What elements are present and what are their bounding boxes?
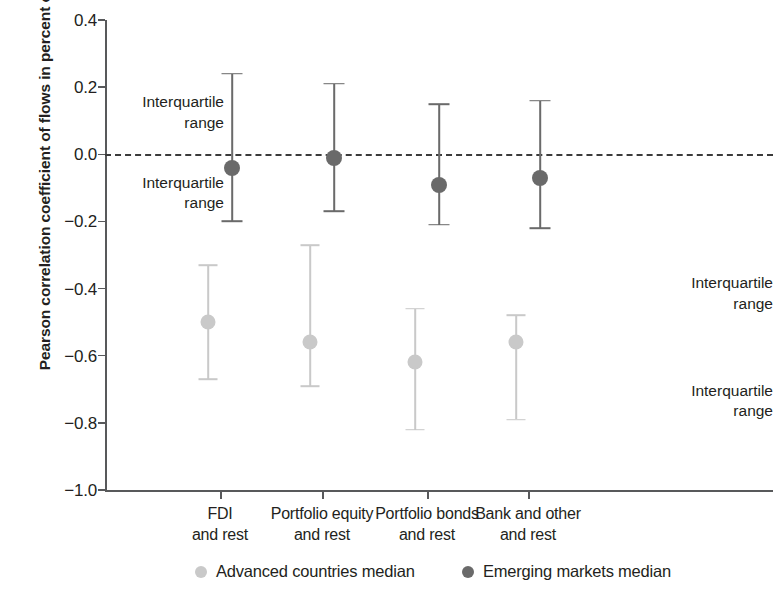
legend-label: Advanced countries median — [216, 562, 415, 581]
y-axis-tick-label: 0.4 — [37, 12, 97, 29]
y-axis-tick-label: −0.2 — [37, 213, 97, 230]
annot-em-upper-iqr: Interquartile range — [142, 92, 224, 133]
y-axis-line — [105, 20, 107, 490]
legend-swatch-icon — [195, 566, 207, 578]
legend-item[interactable]: Emerging markets median — [462, 562, 671, 581]
chart-figure: Pearson correlation coefficient of flows… — [0, 0, 773, 590]
y-axis-tick-mark — [98, 221, 105, 223]
advanced-median-marker — [408, 355, 423, 370]
legend-item[interactable]: Advanced countries median — [195, 562, 415, 581]
y-axis-tick-mark — [98, 422, 105, 424]
x-axis-category-label: Portfolio equity and rest — [271, 504, 374, 546]
emerging-median-marker — [532, 170, 548, 186]
annot-em-lower-iqr: Interquartile range — [142, 173, 224, 214]
interquartile-range-cap — [406, 308, 425, 310]
advanced-median-marker — [509, 335, 524, 350]
x-axis-line — [105, 490, 773, 492]
y-axis-tick-label: −0.8 — [37, 414, 97, 431]
x-axis-tick-mark — [528, 491, 530, 499]
interquartile-range-cap — [199, 264, 218, 266]
y-axis-tick-label: −0.6 — [37, 347, 97, 364]
y-axis-tick-label: 0.2 — [37, 79, 97, 96]
annot-adv-lower-iqr: Interquartile range — [638, 381, 773, 422]
x-axis-category-label: Portfolio bonds and rest — [375, 504, 479, 546]
x-axis-tick-mark — [220, 491, 222, 499]
interquartile-range-bar — [333, 84, 335, 212]
emerging-median-marker — [431, 177, 447, 193]
interquartile-range-bar — [515, 315, 517, 419]
emerging-median-marker — [224, 160, 240, 176]
interquartile-range-bar — [309, 245, 311, 386]
annot-adv-upper-iqr: Interquartile range — [638, 273, 773, 314]
interquartile-range-cap — [429, 224, 450, 226]
advanced-median-marker — [303, 335, 318, 350]
advanced-median-marker — [201, 315, 216, 330]
x-axis-category-label: Bank and other and rest — [475, 504, 581, 546]
y-axis-tick-mark — [98, 355, 105, 357]
y-axis-title: Pearson correlation coefficient of flows… — [35, 0, 56, 395]
legend-swatch-icon — [462, 566, 474, 578]
y-axis-tick-mark — [98, 288, 105, 290]
interquartile-range-cap — [324, 83, 345, 85]
y-axis-tick-mark — [98, 86, 105, 88]
y-axis-tick-mark — [98, 154, 105, 156]
interquartile-range-cap — [530, 100, 551, 102]
x-axis-tick-mark — [322, 491, 324, 499]
interquartile-range-cap — [324, 211, 345, 213]
y-axis-tick-mark — [98, 489, 105, 491]
interquartile-range-cap — [301, 385, 320, 387]
interquartile-range-cap — [429, 103, 450, 105]
y-axis-tick-label: −0.4 — [37, 280, 97, 297]
interquartile-range-bar — [438, 104, 440, 225]
interquartile-range-cap — [199, 378, 218, 380]
interquartile-range-cap — [530, 227, 551, 229]
x-axis-tick-mark — [427, 491, 429, 499]
emerging-median-marker — [326, 150, 342, 166]
interquartile-range-bar — [231, 74, 233, 222]
interquartile-range-cap — [507, 419, 526, 421]
x-axis-category-label: FDI and rest — [192, 504, 248, 546]
interquartile-range-cap — [406, 429, 425, 431]
y-axis-tick-mark — [98, 19, 105, 21]
interquartile-range-bar — [539, 101, 541, 229]
legend-label: Emerging markets median — [483, 562, 671, 581]
interquartile-range-cap — [507, 315, 526, 317]
y-axis-tick-label: −1.0 — [37, 482, 97, 499]
y-axis-tick-label: 0.0 — [37, 146, 97, 163]
interquartile-range-cap — [222, 73, 243, 75]
interquartile-range-cap — [301, 244, 320, 246]
interquartile-range-cap — [222, 221, 243, 223]
